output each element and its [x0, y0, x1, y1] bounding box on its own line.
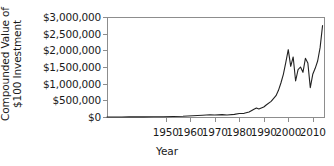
- chart-container: Compounded Value of $100 Investment $0$5…: [0, 0, 334, 166]
- axis-spines: [107, 17, 325, 118]
- plot-area: [0, 0, 334, 166]
- data-series-line: [107, 26, 323, 117]
- axis-tick-marks: [103, 18, 313, 123]
